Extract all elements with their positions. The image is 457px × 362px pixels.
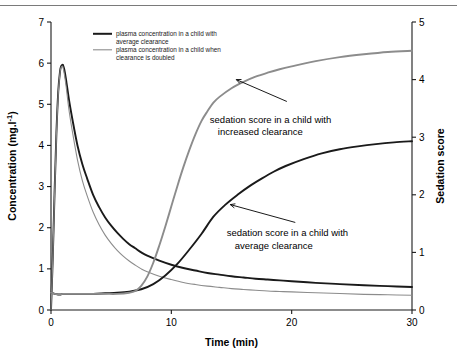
y-axis-left-tick-label: 2 [38, 222, 44, 233]
chart-canvas: 012345670123450102030Time (min)Concentra… [0, 0, 457, 362]
y-axis-left-tick-label: 6 [38, 58, 44, 69]
legend-label-cont-0: average clearance [116, 38, 169, 46]
x-axis-title: Time (min) [205, 336, 258, 348]
x-axis-tick-label: 20 [286, 317, 298, 328]
y-axis-right-tick-label: 3 [419, 132, 425, 143]
figure-container: 012345670123450102030Time (min)Concentra… [0, 0, 457, 362]
y-axis-right-title: Sedation score [434, 128, 446, 203]
annotation-text-cont-0: increased clearance [218, 126, 303, 137]
y-axis-right-tick-label: 1 [419, 247, 425, 258]
x-axis-tick-label: 30 [406, 317, 418, 328]
x-axis-tick-label: 0 [48, 317, 54, 328]
annotation-text-0: sedation score in a child with [210, 114, 331, 125]
y-axis-left-tick-label: 3 [38, 181, 44, 192]
y-axis-left-tick-label: 0 [38, 305, 44, 316]
y-axis-right-tick-label: 2 [419, 189, 425, 200]
annotation-arrow-line-1 [230, 205, 295, 223]
annotation-text-cont-1: average clearance [235, 240, 313, 251]
y-axis-left-title: Concentration (mg.l-1) [5, 111, 19, 220]
y-axis-title-superscript: -1 [5, 115, 14, 122]
y-axis-left-tick-label: 4 [38, 140, 44, 151]
y-axis-right-tick-label: 4 [419, 74, 425, 85]
y-axis-left-tick-label: 1 [38, 263, 44, 274]
y-axis-right-tick-label: 0 [419, 305, 425, 316]
annotation-text-1: sedation score in a child with [227, 227, 348, 238]
y-axis-left-tick-label: 5 [38, 99, 44, 110]
series-line-1 [51, 66, 412, 310]
series-line-0 [51, 65, 412, 310]
y-axis-right-tick-label: 5 [419, 17, 425, 28]
annotation-arrow-line-0 [236, 80, 287, 102]
y-axis-left-tick-label: 7 [38, 17, 44, 28]
legend-label-cont-1: clearance is doubled [116, 54, 175, 61]
series-line-3 [51, 51, 412, 295]
x-axis-tick-label: 10 [166, 317, 178, 328]
